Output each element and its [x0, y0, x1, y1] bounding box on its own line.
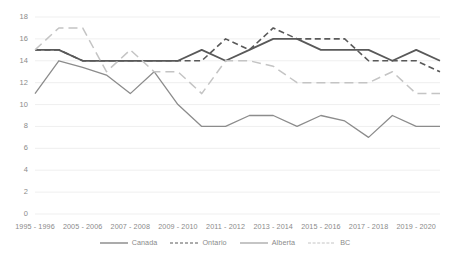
- chart-legend: CanadaOntarioAlbertaBC: [0, 238, 450, 247]
- gridlines: [35, 17, 440, 214]
- x-tick-label: 2019 - 2020: [386, 222, 446, 231]
- legend-swatch-icon: [100, 239, 128, 247]
- y-tick-label: 4: [6, 165, 28, 174]
- legend-label: Alberta: [272, 238, 295, 247]
- series-line-alberta: [35, 61, 440, 138]
- y-tick-label: 16: [6, 34, 28, 43]
- line-chart: 181614121086420 1995 - 19962005 - 200620…: [0, 0, 450, 263]
- y-tick-label: 18: [6, 12, 28, 21]
- legend-label: BC: [340, 238, 350, 247]
- legend-swatch-icon: [170, 239, 198, 247]
- legend-swatch-icon: [240, 239, 268, 247]
- series-line-ontario: [35, 28, 440, 72]
- y-tick-label: 14: [6, 56, 28, 65]
- y-tick-label: 6: [6, 143, 28, 152]
- legend-item-canada[interactable]: Canada: [100, 238, 158, 247]
- series-line-canada: [35, 39, 440, 61]
- legend-item-ontario[interactable]: Ontario: [170, 238, 226, 247]
- legend-label: Canada: [132, 238, 158, 247]
- y-tick-label: 8: [6, 121, 28, 130]
- y-tick-label: 0: [6, 209, 28, 218]
- legend-label: Ontario: [202, 238, 226, 247]
- legend-swatch-icon: [308, 239, 336, 247]
- legend-item-alberta[interactable]: Alberta: [240, 238, 295, 247]
- y-tick-label: 2: [6, 187, 28, 196]
- y-tick-label: 10: [6, 100, 28, 109]
- y-tick-label: 12: [6, 78, 28, 87]
- legend-item-bc[interactable]: BC: [308, 238, 350, 247]
